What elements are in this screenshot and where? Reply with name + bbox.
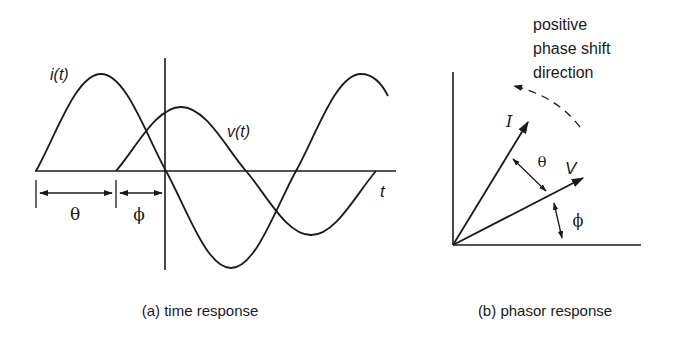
annotation-line-3: direction: [533, 64, 593, 81]
phi-angle-arrow: [554, 203, 562, 238]
annotation-line-2: phase shift: [533, 40, 611, 57]
theta-label: θ: [70, 204, 80, 224]
current-label: i(t): [50, 66, 69, 83]
voltage-label: v(t): [227, 123, 250, 140]
time-response-panel: θ ϕ i(t) v(t) t (a) time response: [35, 58, 396, 319]
phasor-theta-label: θ: [537, 153, 546, 171]
phi-label: ϕ: [133, 204, 145, 224]
phasor-response-caption: (b) phasor response: [478, 302, 612, 319]
time-axis-label: t: [380, 182, 386, 201]
phasor-phi-label: ϕ: [573, 211, 584, 230]
current-phasor-label: I: [505, 112, 513, 131]
annotation-line-1: positive: [533, 16, 587, 33]
phasor-response-panel: I V θ ϕ positive phase shift direction (…: [453, 16, 641, 319]
voltage-phasor-label: V: [565, 159, 578, 178]
time-response-caption: (a) time response: [142, 302, 259, 319]
phase-shift-direction-arrow: [514, 86, 580, 127]
figure-canvas: θ ϕ i(t) v(t) t (a) time response I V θ …: [0, 0, 679, 345]
